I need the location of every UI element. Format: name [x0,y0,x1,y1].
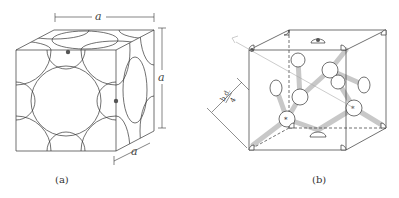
cube-right-edges [116,30,154,151]
dim-label-bottom: a [131,145,138,158]
top-face-spheres [0,21,189,59]
dimension-lines-a [55,13,166,165]
cube-top-edges [16,30,154,50]
asterisk-marker: * [351,105,355,113]
caption-a: (a) [55,174,69,185]
atom-dot-right [114,99,118,103]
asterisk-marker: * [284,116,288,124]
atom-dot-top [66,50,70,54]
bd-dimension-line [207,78,249,148]
bd-label-bottom: 4 [229,96,238,104]
dim-label-top: a [95,10,102,23]
dim-label-right: a [158,71,165,84]
diamond-bonds [253,50,382,145]
bd-label: b.d. 4 [219,87,240,107]
caption-b: (b) [312,174,326,185]
atom-dot-top [316,38,320,42]
diagram-canvas: a a a (a) [0,0,399,198]
front-face-spheres [0,15,151,186]
